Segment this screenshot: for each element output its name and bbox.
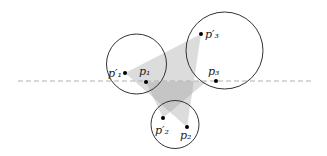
label-p3: p₃	[208, 65, 219, 78]
label-p2-prime: p′₂	[155, 124, 169, 137]
geometry-svg: p′₁ p₁ p′₂ p₂ p′₃ p₃	[0, 0, 327, 156]
point-p3	[214, 79, 218, 83]
label-p3-prime: p′₃	[205, 28, 219, 41]
point-p2-prime	[161, 116, 165, 120]
label-p1-prime: p′₁	[108, 67, 122, 80]
label-p2: p₂	[180, 129, 191, 142]
label-p1: p₁	[139, 65, 150, 78]
point-p3-prime	[199, 32, 203, 36]
point-p1-prime	[123, 71, 127, 75]
diagram-canvas: p′₁ p₁ p′₂ p₂ p′₃ p₃	[0, 0, 327, 156]
point-p1	[144, 80, 148, 84]
